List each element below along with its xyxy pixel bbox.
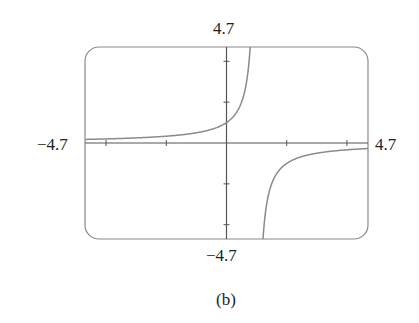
x-min-label: −4.7 bbox=[37, 136, 68, 153]
curve-right-branch bbox=[263, 149, 368, 239]
axes bbox=[85, 47, 368, 239]
x-max-label: 4.7 bbox=[375, 136, 396, 153]
figure-caption: (b) bbox=[216, 291, 236, 308]
graph-plot bbox=[0, 0, 419, 323]
y-max-label: 4.7 bbox=[213, 20, 234, 37]
y-min-label: −4.7 bbox=[206, 247, 237, 264]
